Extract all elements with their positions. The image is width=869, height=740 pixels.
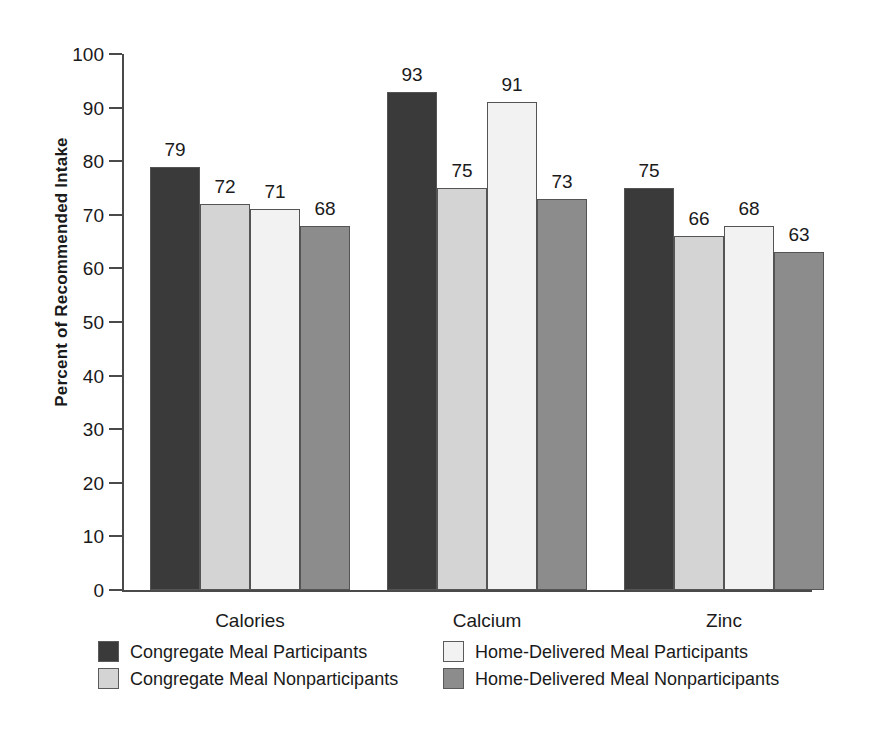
y-axis-tick bbox=[109, 321, 122, 323]
bar-value-label: 72 bbox=[200, 177, 250, 196]
bar bbox=[150, 167, 200, 590]
y-axis-tick bbox=[109, 535, 122, 537]
bar bbox=[487, 102, 537, 590]
legend-entry: Congregate Meal Nonparticipants bbox=[98, 668, 443, 689]
x-axis-category-label: Zinc bbox=[624, 610, 824, 632]
legend-swatch bbox=[98, 641, 119, 662]
bar bbox=[774, 252, 824, 590]
bar bbox=[200, 204, 250, 590]
y-axis-tick-labels: 0102030405060708090100 bbox=[42, 54, 104, 590]
legend-entry: Congregate Meal Participants bbox=[98, 641, 443, 662]
legend-label: Congregate Meal Nonparticipants bbox=[130, 670, 398, 688]
bar bbox=[250, 209, 300, 590]
bar-value-label: 66 bbox=[674, 209, 724, 228]
y-axis-tick bbox=[109, 107, 122, 109]
bar-chart-figure: Percent of Recommended Intake 0102030405… bbox=[0, 0, 869, 740]
y-axis-tick-label: 60 bbox=[44, 259, 104, 278]
y-axis-tick-label: 80 bbox=[44, 152, 104, 171]
legend-entry: Home-Delivered Meal Nonparticipants bbox=[443, 668, 779, 689]
bar bbox=[537, 199, 587, 590]
y-axis-tick-label: 100 bbox=[44, 45, 104, 64]
bar-value-label: 73 bbox=[537, 172, 587, 191]
y-axis-tick bbox=[109, 160, 122, 162]
bar-value-label: 63 bbox=[774, 225, 824, 244]
bar-value-label: 79 bbox=[150, 140, 200, 159]
x-axis-category-label: Calories bbox=[150, 610, 350, 632]
x-axis-category-label: Calcium bbox=[387, 610, 587, 632]
y-axis-tick-label: 70 bbox=[44, 206, 104, 225]
legend-swatch bbox=[98, 668, 119, 689]
legend-label: Congregate Meal Participants bbox=[130, 643, 367, 661]
bar-series-container: 797271689375917375666863 bbox=[122, 54, 810, 590]
chart-legend: Congregate Meal ParticipantsHome-Deliver… bbox=[98, 641, 798, 695]
y-axis-tick bbox=[109, 428, 122, 430]
y-axis-tick bbox=[109, 53, 122, 55]
y-axis-tick-label: 10 bbox=[44, 527, 104, 546]
bar-value-label: 71 bbox=[250, 182, 300, 201]
legend-label: Home-Delivered Meal Nonparticipants bbox=[475, 670, 779, 688]
y-axis-tick bbox=[109, 267, 122, 269]
bar-value-label: 68 bbox=[724, 199, 774, 218]
y-axis-tick-label: 40 bbox=[44, 367, 104, 386]
x-axis-line bbox=[122, 590, 812, 592]
bar-value-label: 68 bbox=[300, 199, 350, 218]
legend-entry: Home-Delivered Meal Participants bbox=[443, 641, 748, 662]
bar-value-label: 93 bbox=[387, 65, 437, 84]
y-axis-tick-label: 90 bbox=[44, 99, 104, 118]
y-axis-tick-label: 0 bbox=[44, 581, 104, 600]
bar bbox=[674, 236, 724, 590]
legend-row: Congregate Meal NonparticipantsHome-Deli… bbox=[98, 668, 798, 689]
legend-swatch bbox=[443, 668, 464, 689]
y-axis-tick bbox=[109, 589, 122, 591]
y-axis-tick bbox=[109, 482, 122, 484]
legend-swatch bbox=[443, 641, 464, 662]
y-axis-tick-label: 50 bbox=[44, 313, 104, 332]
y-axis-tick bbox=[109, 214, 122, 216]
y-axis-tick-label: 20 bbox=[44, 474, 104, 493]
y-axis-tick-label: 30 bbox=[44, 420, 104, 439]
y-axis-tick bbox=[109, 375, 122, 377]
plot-area: 0102030405060708090100 79727168937591737… bbox=[122, 54, 810, 590]
bar bbox=[724, 226, 774, 590]
bar bbox=[387, 92, 437, 590]
legend-label: Home-Delivered Meal Participants bbox=[475, 643, 748, 661]
legend-row: Congregate Meal ParticipantsHome-Deliver… bbox=[98, 641, 798, 662]
bar bbox=[437, 188, 487, 590]
bar-value-label: 75 bbox=[437, 161, 487, 180]
bar bbox=[300, 226, 350, 590]
bar bbox=[624, 188, 674, 590]
bar-value-label: 75 bbox=[624, 161, 674, 180]
bar-value-label: 91 bbox=[487, 75, 537, 94]
